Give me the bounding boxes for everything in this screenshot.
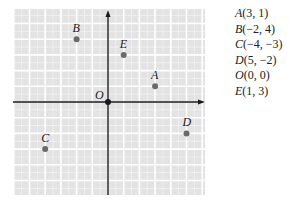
legend-letter: O [235, 68, 244, 82]
point-d [184, 130, 190, 136]
point-label-a: A [150, 68, 159, 82]
point-c [42, 146, 48, 152]
legend-coords: (5, −2) [244, 53, 277, 67]
point-label-o: O [95, 88, 104, 102]
point-legend: A(3, 1) B(−2, 4) C(−4, −3) D(5, −2) O(0,… [235, 6, 283, 100]
point-label-d: D [182, 115, 192, 129]
legend-row-o: O(0, 0) [235, 68, 283, 84]
point-o [105, 99, 111, 105]
legend-row-b: B(−2, 4) [235, 22, 283, 38]
point-e [121, 52, 127, 58]
legend-coords: (−2, 4) [242, 22, 275, 36]
legend-coords: (0, 0) [244, 68, 270, 82]
point-a [152, 83, 158, 89]
legend-row-d: D(5, −2) [235, 53, 283, 69]
legend-letter: D [235, 53, 244, 67]
legend-row-e: E(1, 3) [235, 84, 283, 100]
point-label-c: C [41, 131, 50, 145]
point-label-b: B [73, 21, 81, 35]
coordinate-plane: ABCDOE [0, 0, 215, 200]
legend-row-c: C(−4, −3) [235, 37, 283, 53]
point-label-e: E [119, 37, 128, 51]
legend-letter: C [235, 37, 243, 51]
legend-row-a: A(3, 1) [235, 6, 283, 22]
point-b [74, 36, 80, 42]
legend-coords: (−4, −3) [243, 37, 283, 51]
legend-coords: (1, 3) [242, 84, 268, 98]
legend-coords: (3, 1) [242, 6, 268, 20]
